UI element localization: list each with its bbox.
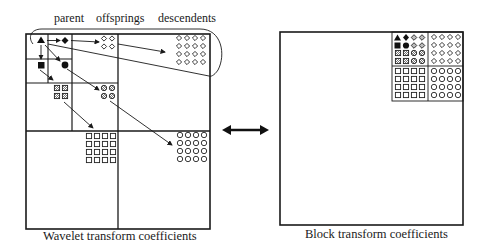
hatched-squares xyxy=(54,85,67,98)
filled-diamond-icon xyxy=(403,34,409,41)
block-cell xyxy=(392,32,463,101)
label-parent: parent xyxy=(54,11,84,26)
parent-triangle-icon xyxy=(394,35,401,41)
dependency-arrows xyxy=(40,41,172,146)
filled-square-icon xyxy=(395,43,401,49)
filled-circle-icon xyxy=(62,62,69,69)
parent-triangle-icon xyxy=(37,37,45,44)
filled-circle-icon xyxy=(403,42,409,48)
label-descendents: descendents xyxy=(158,11,216,26)
caption-wavelet: Wavelet transform coefficients xyxy=(43,229,197,244)
descendent-squares xyxy=(86,133,115,162)
offspring-diamonds xyxy=(101,36,114,49)
double-headed-arrow-icon xyxy=(222,125,269,135)
caption-block: Block transform coefficients xyxy=(305,227,448,242)
descendent-circles xyxy=(177,132,206,161)
label-offsprings: offsprings xyxy=(96,11,144,26)
hatched-circles xyxy=(101,85,114,98)
diagram-canvas xyxy=(0,0,486,246)
filled-diamond-icon xyxy=(62,37,69,44)
block-diagram xyxy=(280,32,463,225)
descendent-diamonds xyxy=(176,35,205,64)
filled-square-icon xyxy=(38,62,45,69)
wavelet-diagram xyxy=(26,29,222,229)
